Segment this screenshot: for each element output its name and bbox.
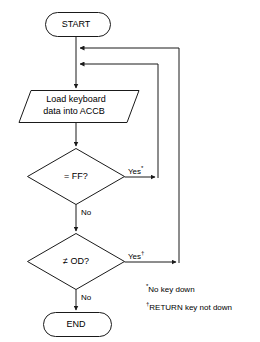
io-node-label-line1: Load keyboard [26,94,126,105]
footnote-asterisk-text: No key down [148,285,194,294]
edge-label-ff-yes: Yes* [128,164,143,176]
footnote-asterisk: *No key down [146,281,195,295]
connector-outer-return-loop [80,48,179,263]
footnote-dagger-text: RETURN key not down [149,303,232,312]
io-node-label-line2: data into ACCB [24,106,124,117]
flowchart-canvas: START Load keyboard data into ACCB = FF?… [0,0,260,342]
edge-label-ff-yes-marker: * [141,165,143,171]
end-node-label: END [36,319,116,330]
edge-label-od-yes-marker: † [141,250,144,256]
footnote-dagger: †RETURN key not down [146,299,232,313]
decision-od-label: ≠ OD? [36,256,116,267]
edge-label-ff-no: No [81,208,91,217]
decision-ff-label: = FF? [36,171,116,182]
edge-label-od-yes: Yes† [128,249,144,261]
edge-label-ff-yes-text: Yes [128,167,141,176]
edge-label-od-no: No [81,293,91,302]
start-node-label: START [36,19,116,30]
edge-label-od-yes-text: Yes [128,252,141,261]
